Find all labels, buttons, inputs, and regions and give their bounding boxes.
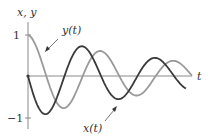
y-annotation-arrow [45, 39, 58, 52]
tick-label-1: 1 [13, 29, 20, 42]
x-start-dot [26, 74, 29, 77]
tick-label-neg-1: −1 [7, 112, 23, 125]
y-curve [28, 35, 192, 108]
chart: x, y t 1 −1 y(t) x(t) [0, 0, 208, 138]
t-axis-label: t [197, 70, 202, 83]
x-series-label: x(t) [83, 122, 102, 135]
y-axis-label: x, y [17, 6, 37, 19]
x-annotation-arrow [105, 106, 117, 121]
y-series-label: y(t) [61, 24, 81, 37]
